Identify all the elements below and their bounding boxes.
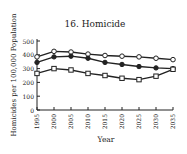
data-point-marker <box>171 57 176 62</box>
data-point-marker <box>103 53 108 58</box>
data-point-marker <box>120 62 124 66</box>
y-tick-label: 300 <box>23 65 35 72</box>
x-tick-label: 1995 <box>33 114 40 129</box>
data-point-marker <box>69 68 73 72</box>
data-point-marker <box>137 77 141 81</box>
x-tick-label: 2015 <box>101 114 108 129</box>
data-point-marker <box>103 73 107 77</box>
x-axis-label: Year <box>97 135 115 144</box>
y-tick-label: 200 <box>23 79 35 86</box>
x-tick-label: 2000 <box>50 114 57 129</box>
data-point-marker <box>35 71 39 75</box>
data-point-marker <box>103 60 107 64</box>
x-tick-label: 2035 <box>169 114 176 129</box>
x-tick-label: 2030 <box>152 114 159 129</box>
data-point-marker <box>35 60 39 64</box>
homicide-line-chart: 16. Homicide Homicides per 100,000 Popul… <box>0 0 187 154</box>
x-tick-label: 2025 <box>135 114 142 129</box>
data-point-marker <box>171 67 175 71</box>
axes: 0100200300400500199520002005201020152020… <box>23 38 176 130</box>
data-series <box>35 49 176 82</box>
data-point-marker <box>137 64 141 68</box>
data-point-marker <box>52 55 56 59</box>
x-tick-label: 2020 <box>118 114 125 129</box>
x-tick-label: 2010 <box>84 114 91 129</box>
data-point-marker <box>69 54 73 58</box>
data-point-marker <box>86 56 90 60</box>
x-tick-label: 2005 <box>67 114 74 129</box>
y-tick-label: 400 <box>23 51 35 58</box>
data-point-marker <box>154 56 159 61</box>
y-tick-label: 0 <box>30 107 34 114</box>
data-point-marker <box>52 49 57 54</box>
data-point-marker <box>86 71 90 75</box>
y-axis-label: Homicides per 100,000 Population <box>10 13 18 136</box>
chart-title: 16. Homicide <box>65 19 126 29</box>
data-point-marker <box>120 76 124 80</box>
data-point-marker <box>154 74 158 78</box>
data-point-marker <box>154 66 158 70</box>
data-point-marker <box>35 55 40 60</box>
y-tick-label: 100 <box>23 93 35 100</box>
y-tick-label: 500 <box>23 38 35 45</box>
data-point-marker <box>120 54 125 59</box>
data-point-marker <box>137 55 142 60</box>
data-point-marker <box>52 66 56 70</box>
